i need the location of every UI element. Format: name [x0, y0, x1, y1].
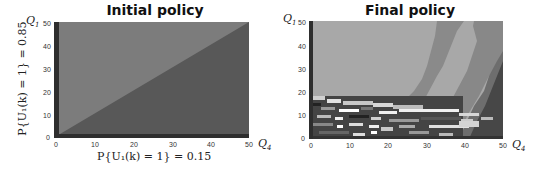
left-heatmap — [54, 22, 249, 138]
right-chart-title: Final policy — [350, 2, 470, 18]
left-chart-title: Initial policy — [80, 2, 230, 18]
left-bottom-label: P{U₁(k) = 1} = 0.15 — [97, 150, 211, 163]
left-x-axis-label: Q4 — [258, 137, 272, 152]
left-side-label: P{U₁(k) = 1} = 0.85 — [16, 19, 29, 139]
right-heatmap — [309, 21, 503, 139]
right-x-axis-label: Q4 — [512, 138, 526, 153]
right-y-axis-label: Q1 — [283, 12, 297, 27]
